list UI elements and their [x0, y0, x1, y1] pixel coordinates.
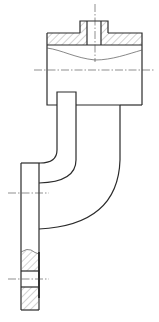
pipe-inner-bend	[40, 105, 57, 163]
bottom-flange	[21, 163, 40, 310]
intersection-curve	[47, 48, 142, 60]
flange-hatch-upper	[21, 249, 39, 271]
boss-hatch-right	[101, 21, 108, 45]
curved-pipe	[39, 92, 142, 229]
housing-hatch-right	[108, 33, 142, 45]
housing-body	[47, 33, 142, 105]
flange-hatch-lower	[21, 287, 39, 310]
pipe-inlet-outline	[57, 92, 76, 105]
housing-hatch-left	[47, 33, 80, 45]
boss-hatch-left	[80, 21, 87, 45]
pipe-outer-arc	[39, 105, 120, 229]
technical-drawing	[0, 0, 159, 322]
top-boss	[80, 21, 108, 45]
